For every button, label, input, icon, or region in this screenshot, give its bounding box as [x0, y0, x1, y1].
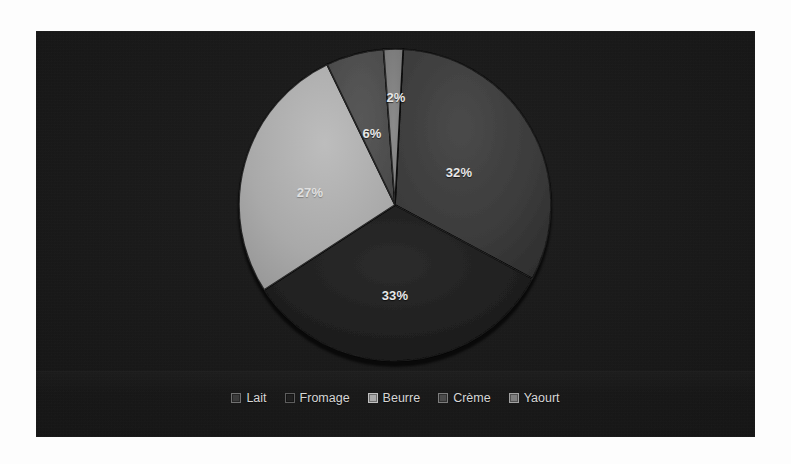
legend-label: Crème: [453, 391, 491, 405]
legend-swatch-icon: [438, 393, 448, 403]
screenshot-root: 32%33%27%6%2% LaitFromageBeurreCrèmeYaou…: [0, 0, 791, 464]
legend-swatch-icon: [368, 393, 378, 403]
legend-swatch-icon: [285, 393, 295, 403]
legend-label: Beurre: [383, 391, 421, 405]
legend-swatch-icon: [509, 393, 519, 403]
legend-label: Yaourt: [524, 391, 560, 405]
legend-label: Fromage: [300, 391, 350, 405]
pie-label-beurre: 27%: [297, 185, 324, 200]
legend-item-crme[interactable]: Crème: [438, 391, 491, 405]
pie-label-crme: 6%: [362, 126, 381, 141]
legend-item-yaourt[interactable]: Yaourt: [509, 391, 560, 405]
chart-legend: LaitFromageBeurreCrèmeYaourt: [36, 391, 755, 405]
legend-label: Lait: [246, 391, 266, 405]
pie-label-yaourt: 2%: [386, 90, 405, 105]
pie-label-lait: 32%: [446, 165, 473, 180]
legend-swatch-icon: [231, 393, 241, 403]
legend-item-fromage[interactable]: Fromage: [285, 391, 350, 405]
legend-item-beurre[interactable]: Beurre: [368, 391, 421, 405]
pie-label-fromage: 33%: [382, 288, 409, 303]
pie-chart-plot-area: 32%33%27%6%2% LaitFromageBeurreCrèmeYaou…: [36, 31, 755, 437]
legend-item-lait[interactable]: Lait: [231, 391, 266, 405]
